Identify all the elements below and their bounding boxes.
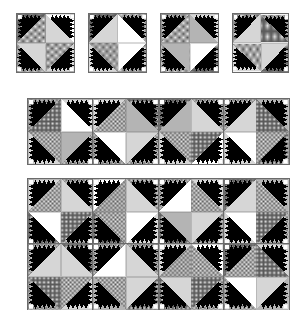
sawtooth-quadrant (28, 212, 61, 245)
sawtooth-quadrant (261, 43, 289, 72)
sawtooth-quadrant (28, 277, 61, 310)
sawtooth-quadrant (191, 99, 224, 132)
sawtooth-quadrant (159, 179, 192, 212)
block-grid (28, 179, 289, 296)
quilt-panel-quilt-panel (27, 178, 290, 297)
sawtooth-quadrant (190, 43, 219, 72)
sawtooth-quadrant (159, 99, 192, 132)
sawtooth-quadrant (118, 14, 147, 43)
sawtooth-quadrant (93, 277, 126, 310)
sawtooth-quadrant (126, 132, 159, 165)
sawtooth-quadrant (159, 132, 192, 165)
block-grid (28, 99, 289, 158)
quilt-block (224, 244, 289, 309)
sawtooth-quadrant (256, 179, 289, 212)
sawtooth-quadrant (126, 244, 159, 277)
sawtooth-quadrant (159, 244, 192, 277)
sawtooth-quadrant (93, 244, 126, 277)
sawtooth-quadrant (93, 99, 126, 132)
quilt-block (28, 244, 93, 309)
sawtooth-quadrant (159, 277, 192, 310)
quilt-block (224, 179, 289, 244)
sawtooth-quadrant (161, 14, 190, 43)
sawtooth-quadrant (161, 43, 190, 72)
sawtooth-quadrant (126, 99, 159, 132)
sawtooth-quadrant (28, 132, 61, 165)
sawtooth-quadrant (126, 212, 159, 245)
quilt-block (28, 99, 93, 164)
sawtooth-quadrant (17, 14, 46, 43)
sawtooth-quadrant (190, 14, 219, 43)
sawtooth-quadrant (159, 212, 192, 245)
sawtooth-quadrant (256, 277, 289, 310)
quilt-panel-single-block-3 (160, 13, 219, 73)
sawtooth-quadrant (89, 43, 118, 72)
quilt-panel-row-band (27, 98, 290, 159)
sawtooth-quadrant (224, 179, 257, 212)
sawtooth-quadrant (256, 212, 289, 245)
sawtooth-quadrant (191, 132, 224, 165)
sawtooth-quadrant (93, 179, 126, 212)
quilt-block (89, 14, 146, 72)
quilt-block (28, 179, 93, 244)
sawtooth-quadrant (61, 277, 94, 310)
sawtooth-quadrant (233, 43, 261, 72)
block-grid (233, 14, 288, 72)
sawtooth-quadrant (224, 244, 257, 277)
sawtooth-quadrant (224, 277, 257, 310)
quilt-block (93, 179, 158, 244)
sawtooth-quadrant (224, 132, 257, 165)
sawtooth-quadrant (28, 179, 61, 212)
sawtooth-quadrant (261, 14, 289, 43)
quilt-block (233, 14, 288, 72)
quilt-block (159, 99, 224, 164)
quilt-panel-single-block-1 (16, 13, 75, 73)
sawtooth-quadrant (191, 277, 224, 310)
sawtooth-quadrant (256, 244, 289, 277)
quilt-block (161, 14, 218, 72)
sawtooth-quadrant (28, 99, 61, 132)
sawtooth-quadrant (118, 43, 147, 72)
quilt-block (159, 244, 224, 309)
sawtooth-quadrant (256, 132, 289, 165)
sawtooth-quadrant (191, 179, 224, 212)
sawtooth-quadrant (61, 244, 94, 277)
sawtooth-quadrant (61, 179, 94, 212)
sawtooth-quadrant (93, 132, 126, 165)
quilt-block (17, 14, 74, 72)
sawtooth-quadrant (61, 99, 94, 132)
quilt-block (93, 244, 158, 309)
quilt-block (159, 179, 224, 244)
sawtooth-quadrant (126, 277, 159, 310)
sawtooth-quadrant (28, 244, 61, 277)
sawtooth-quadrant (61, 212, 94, 245)
block-grid (17, 14, 74, 72)
sawtooth-quadrant (224, 99, 257, 132)
sawtooth-quadrant (191, 244, 224, 277)
sawtooth-quadrant (256, 99, 289, 132)
sawtooth-quadrant (126, 179, 159, 212)
sawtooth-quadrant (93, 212, 126, 245)
sawtooth-quadrant (17, 43, 46, 72)
sawtooth-quadrant (46, 14, 75, 43)
sawtooth-quadrant (46, 43, 75, 72)
quilt-block (93, 99, 158, 164)
sawtooth-quadrant (89, 14, 118, 43)
sawtooth-quadrant (224, 212, 257, 245)
sawtooth-quadrant (191, 212, 224, 245)
sawtooth-quadrant (233, 14, 261, 43)
quilt-panel-single-block-2 (88, 13, 147, 73)
quilt-block (224, 99, 289, 164)
block-grid (161, 14, 218, 72)
sawtooth-quadrant (61, 132, 94, 165)
quilt-panel-single-block-4 (232, 13, 289, 73)
block-grid (89, 14, 146, 72)
